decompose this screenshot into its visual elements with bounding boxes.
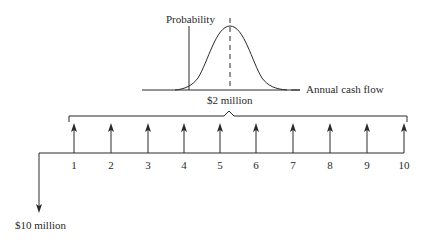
period-label: 7 [290,159,296,171]
inflow-arrow-9 [364,123,370,153]
period-label: 10 [399,159,411,171]
normal-curve [175,26,287,90]
period-label: 8 [327,159,333,171]
cash-flow-timeline: $10 million 1 2 3 4 5 6 7 8 9 10 [15,123,410,231]
initial-outflow-label: $10 million [15,219,67,231]
inflow-arrow-6 [253,123,259,153]
inflow-arrow-3 [145,123,151,153]
inflow-arrow-8 [327,123,333,153]
inflow-arrow-7 [290,123,296,153]
period-label: 1 [71,159,77,171]
probability-distribution: Probability Annual cash flow $2 million [142,13,384,106]
period-label: 3 [145,159,151,171]
inflow-arrows [71,123,407,153]
annual-flows-bracket [69,111,407,122]
inflow-arrow-10 [401,123,407,153]
period-label: 4 [181,159,187,171]
inflow-arrow-4 [181,123,187,153]
mean-label: $2 million [207,94,253,106]
y-axis-label: Probability [166,13,215,25]
inflow-arrow-1 [71,123,77,153]
period-label: 5 [217,159,223,171]
period-label: 6 [253,159,259,171]
inflow-arrow-2 [108,123,114,153]
period-label: 9 [364,159,370,171]
period-labels: 1 2 3 4 5 6 7 8 9 10 [71,159,410,171]
period-label: 2 [108,159,114,171]
inflow-arrow-5 [217,123,223,153]
cash-flow-diagram: Probability Annual cash flow $2 million … [0,0,431,247]
x-axis-label: Annual cash flow [306,83,384,95]
